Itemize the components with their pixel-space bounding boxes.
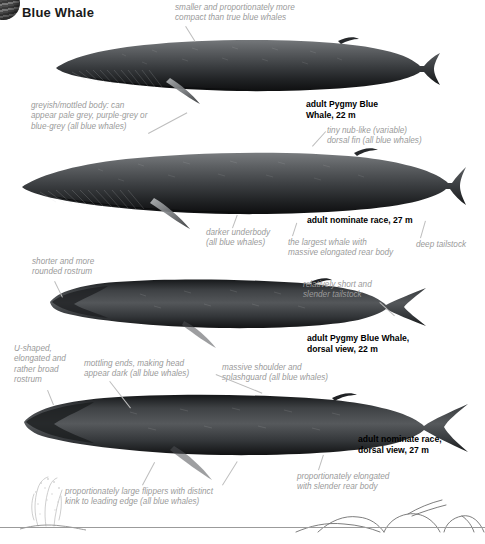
leader-line-flippers-b [222,461,238,485]
whale-body-path [22,153,466,214]
waterline [0,527,485,528]
annotation-short-rostrum: shorter and more rounded rostrum [32,257,152,278]
whale-illustration-nominate-lateral [18,137,466,223]
annotation-mottled-body: greyish/mottled body: can appear pale gr… [31,101,201,132]
whale-plate: Blue Whale [0,0,485,544]
annotation-flippers: proportionately large flippers with dist… [65,487,295,508]
label-pygmy-lateral: adult Pygmy Blue Whale, 22 m [306,99,378,121]
dorsal-fin [338,37,359,44]
annotation-splashguard: massive shoulder and splashguard (all bl… [222,363,397,384]
dorsal-fin [354,148,378,156]
dorsal-fin [332,393,357,401]
page-title: Blue Whale [22,5,94,20]
annotation-slender-tailstock: relatively short and slender tailstock [303,280,443,301]
leader-line-flippers-a [142,462,155,485]
leader-line-deeptailstock [420,221,426,239]
whale-body-svg-1 [52,28,442,96]
whale-body-svg-2 [18,137,466,223]
whale-illustration-pygmy-lateral [52,28,442,96]
label-nominate-dorsal: adult nominate race, dorsal view, 27 m [358,434,442,456]
dive-sequence-outline [296,496,485,540]
sphere-icon [0,0,20,20]
annotation-elongated-rear: proportionately elongated with slender r… [297,472,462,493]
whale-blow-silhouette [14,474,94,534]
label-pygmy-dorsal: adult Pygmy Blue Whale, dorsal view, 22 … [307,333,409,355]
annotation-deep-tailstock: deep tailstock [416,240,485,250]
whale-body-path [56,40,440,91]
annotation-compact: smaller and proportionately more compact… [175,3,350,24]
label-nominate-lateral: adult nominate race, 27 m [307,215,413,226]
